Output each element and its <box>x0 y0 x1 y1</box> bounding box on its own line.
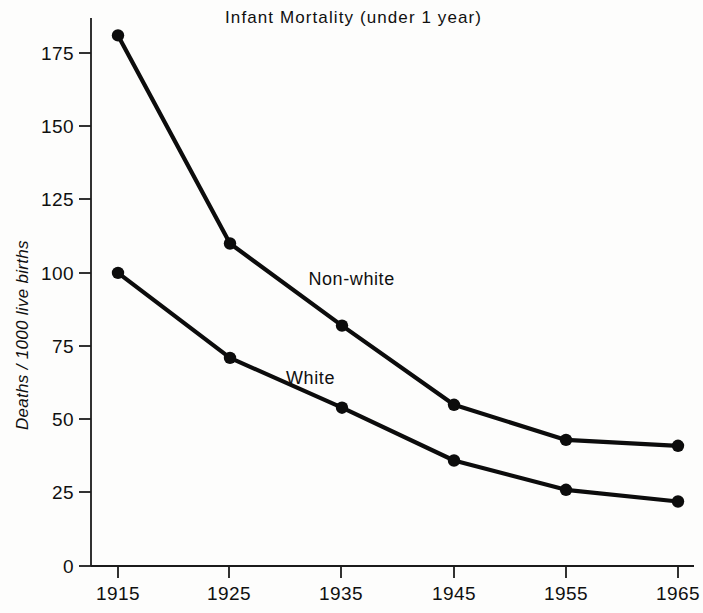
chart-title: Infant Mortality (under 1 year) <box>225 8 482 27</box>
series-line <box>118 273 678 502</box>
data-point <box>112 29 124 41</box>
data-point <box>448 454 460 466</box>
x-tick-label: 1935 <box>319 583 363 604</box>
x-tick-label: 1955 <box>544 583 588 604</box>
x-tick-label: 1915 <box>96 583 140 604</box>
y-tick-label: 75 <box>52 336 74 357</box>
y-tick-label: 100 <box>41 263 74 284</box>
data-point <box>672 495 684 507</box>
y-tick-label: 125 <box>41 189 74 210</box>
y-tick-label: 50 <box>52 409 74 430</box>
y-tick-marks <box>79 53 91 566</box>
y-tick-label: 25 <box>52 482 74 503</box>
data-point <box>336 319 348 331</box>
data-point <box>672 440 684 452</box>
data-point <box>336 402 348 414</box>
series-layer <box>112 29 684 507</box>
data-point <box>560 434 572 446</box>
x-tick-marks <box>118 566 678 578</box>
x-tick-label: 1925 <box>207 583 251 604</box>
x-tick-label: 1965 <box>656 583 700 604</box>
y-tick-labels: 175 150 125 100 75 50 25 0 <box>41 43 74 577</box>
y-tick-label: 0 <box>63 556 74 577</box>
data-point <box>560 484 572 496</box>
data-point <box>112 267 124 279</box>
series-line <box>118 35 678 445</box>
x-tick-label: 1945 <box>432 583 476 604</box>
chart-figure: Infant Mortality (under 1 year) 175 150 … <box>0 0 703 613</box>
data-point <box>224 352 236 364</box>
x-tick-labels: 1915 1925 1935 1945 1955 1965 <box>96 583 700 604</box>
data-point <box>448 399 460 411</box>
y-axis-title: Deaths / 1000 live births <box>13 240 32 430</box>
data-point <box>224 237 236 249</box>
series-annotation-label: White <box>286 368 335 388</box>
y-tick-label: 150 <box>41 116 74 137</box>
series-annotation-label: Non-white <box>308 269 394 289</box>
y-tick-label: 175 <box>41 43 74 64</box>
